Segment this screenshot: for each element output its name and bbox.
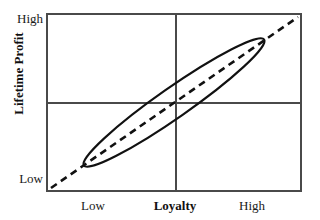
trend-line-group — [51, 17, 298, 188]
chart-screenshot: High Low Low High Loyalty Lifetime Profi… — [0, 0, 320, 220]
trend-line — [51, 17, 298, 188]
x-axis-tick-high: High — [225, 199, 279, 212]
x-axis-tick-low: Low — [66, 199, 120, 212]
y-axis-tick-low: Low — [5, 172, 43, 185]
y-axis-title: Lifetime Profit — [12, 24, 25, 124]
plot-svg — [0, 0, 320, 220]
x-axis-title: Loyalty — [138, 199, 212, 212]
